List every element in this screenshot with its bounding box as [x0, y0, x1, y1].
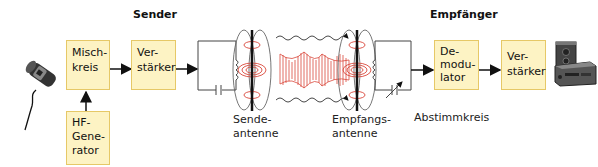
sender-amp-label-line2: stärker: [137, 60, 170, 75]
hf-label-line2: Gene-: [72, 130, 104, 144]
send-antenna: [233, 30, 271, 111]
mixer-block: Misch- kreis: [66, 40, 110, 90]
receive-antenna: [338, 30, 376, 111]
receiver-amplifier-block: Ver- stärker: [501, 40, 546, 90]
demodulator-block: De- modu- lator: [434, 40, 479, 90]
tuning-circuit: [373, 41, 411, 98]
receive-antenna-label-line2: antenne: [332, 127, 391, 141]
sender-lc-circuit: [198, 41, 238, 95]
demod-label-line3: lator: [440, 71, 473, 84]
receive-antenna-label: Empfangs- antenne: [332, 113, 391, 141]
demod-label-line2: modu-: [440, 58, 473, 71]
sender-amplifier-block: Ver- stärker: [131, 40, 176, 90]
receiver-amp-label-line1: Ver-: [507, 49, 540, 64]
send-antenna-label-line2: antenne: [233, 127, 279, 141]
stereo-speaker-icon: [555, 42, 596, 86]
mixer-label-line1: Misch-: [72, 45, 104, 60]
send-antenna-label-line1: Sende-: [233, 113, 279, 127]
hf-label-line3: rator: [72, 144, 104, 158]
receiver-amp-label-line2: stärker: [507, 64, 540, 79]
hf-generator-block: HF- Gene- rator: [66, 111, 110, 165]
demod-label-line1: De-: [440, 45, 473, 58]
tuning-circuit-label: Abstimmkreis: [414, 111, 489, 125]
receive-antenna-label-line1: Empfangs-: [332, 113, 391, 127]
hf-label-line1: HF-: [72, 116, 104, 130]
microphone-icon: [24, 59, 58, 130]
send-antenna-label: Sende- antenne: [233, 113, 279, 141]
mixer-label-line2: kreis: [72, 60, 104, 75]
receiver-title: Empfänger: [430, 8, 498, 21]
sender-amp-label-line1: Ver-: [137, 45, 170, 60]
sender-title: Sender: [133, 8, 177, 21]
